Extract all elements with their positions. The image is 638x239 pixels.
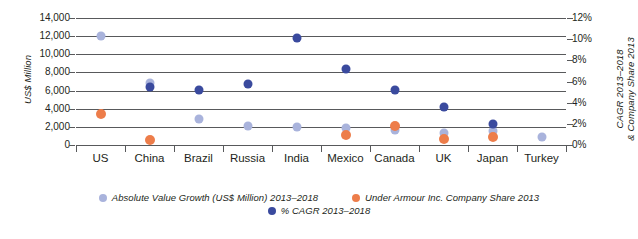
legend-row-secondary: % CAGR 2013–2018	[0, 205, 638, 218]
chart-legend: Absolute Value Growth (US$ Million) 2013…	[0, 192, 638, 218]
y-tick-label-left: 4,000	[45, 104, 70, 114]
x-axis-tick	[76, 145, 77, 152]
scatter-chart: US$ Million CAGR 2013–2018 & Company Sha…	[0, 0, 638, 239]
plot-area	[76, 18, 566, 145]
legend-label: Absolute Value Growth (US$ Million) 2013…	[112, 192, 318, 205]
data-point-cagr	[243, 79, 252, 88]
y-tick-label-left: 8,000	[45, 67, 70, 77]
gridline-tick-left	[69, 127, 75, 128]
data-point-ua	[390, 121, 400, 131]
data-point-cagr	[194, 85, 203, 94]
legend-swatch-dot-icon	[268, 207, 276, 215]
x-axis-category-label: Canada	[370, 152, 419, 165]
data-point-abs	[194, 114, 203, 123]
gridline-tick-left	[69, 72, 75, 73]
y-axis-right-title-line1: CAGR 2013–2018	[614, 49, 625, 128]
data-point-cagr	[488, 119, 497, 128]
y-tick-label-right: 0%	[572, 140, 586, 150]
x-axis-tick	[125, 145, 126, 152]
x-axis-tick	[321, 145, 322, 152]
legend-item[interactable]: Under Armour Inc. Company Share 2013	[352, 192, 539, 205]
gridline	[76, 72, 566, 73]
gridline-tick-left	[69, 145, 75, 146]
data-point-cagr	[439, 102, 448, 111]
data-point-cagr	[341, 64, 350, 73]
x-axis-category-label: UK	[419, 152, 468, 165]
y-tick-label-right: 2%	[572, 119, 586, 129]
x-axis-tick	[174, 145, 175, 152]
gridline	[76, 18, 566, 19]
gridline-tick-left	[69, 91, 75, 92]
y-axis-right-title: CAGR 2013–2018 & Company Share 2013	[615, 29, 637, 149]
gridline-tick-right	[567, 145, 573, 146]
x-axis-category-label: Brazil	[174, 152, 223, 165]
x-axis-tick	[223, 145, 224, 152]
y-tick-label-left: 14,000	[39, 13, 70, 23]
legend-row-primary: Absolute Value Growth (US$ Million) 2013…	[0, 192, 638, 205]
gridline-tick-right	[567, 39, 573, 40]
data-point-abs	[96, 32, 105, 41]
y-tick-label-right: 6%	[572, 77, 586, 87]
gridline-tick-left	[69, 54, 75, 55]
gridline-tick-right	[567, 124, 573, 125]
x-axis-category-label: Turkey	[517, 152, 566, 165]
x-axis-tick	[272, 145, 273, 152]
gridline-tick-left	[69, 18, 75, 19]
legend-label: Under Armour Inc. Company Share 2013	[365, 192, 539, 205]
data-point-abs	[292, 123, 301, 132]
y-tick-label-left: 12,000	[39, 31, 70, 41]
legend-item[interactable]: % CAGR 2013–2018	[268, 205, 371, 218]
gridline-tick-right	[567, 103, 573, 104]
x-axis-tick	[419, 145, 420, 152]
legend-item[interactable]: Absolute Value Growth (US$ Million) 2013…	[99, 192, 318, 205]
y-tick-label-right: 8%	[572, 55, 586, 65]
data-point-ua	[96, 109, 106, 119]
data-point-ua	[145, 135, 155, 145]
x-axis-tick	[468, 145, 469, 152]
legend-label: % CAGR 2013–2018	[281, 205, 371, 218]
data-point-cagr	[145, 82, 154, 91]
x-axis-tick	[370, 145, 371, 152]
data-point-abs	[537, 132, 546, 141]
data-point-cagr	[292, 34, 301, 43]
y-tick-label-left: 10,000	[39, 49, 70, 59]
gridline-tick-left	[69, 109, 75, 110]
x-axis-tick	[566, 145, 567, 152]
gridline-tick-right	[567, 18, 573, 19]
y-tick-label-right: 10%	[572, 34, 592, 44]
x-axis-category-label: Japan	[468, 152, 517, 165]
x-axis-category-label: India	[272, 152, 321, 165]
y-axis-right-title-line2: & Company Share 2013	[626, 29, 637, 149]
gridline	[76, 54, 566, 55]
data-point-abs	[243, 121, 252, 130]
x-axis-category-label: Mexico	[321, 152, 370, 165]
x-axis-category-label: China	[125, 152, 174, 165]
gridline	[76, 109, 566, 110]
legend-swatch-dot-icon	[352, 194, 360, 202]
y-tick-label-right: 4%	[572, 98, 586, 108]
data-point-cagr	[390, 85, 399, 94]
y-tick-label-left: 2,000	[45, 122, 70, 132]
gridline-tick-right	[567, 82, 573, 83]
gridline-tick-right	[567, 60, 573, 61]
x-axis-category-label: US	[76, 152, 125, 165]
y-tick-label-right: 12%	[572, 13, 592, 23]
data-point-ua	[488, 132, 498, 142]
legend-swatch-dot-icon	[99, 194, 107, 202]
gridline-tick-left	[69, 36, 75, 37]
y-tick-label-left: 6,000	[45, 86, 70, 96]
x-axis-category-label: Russia	[223, 152, 272, 165]
gridline	[76, 36, 566, 37]
data-point-ua	[439, 134, 449, 144]
x-axis-tick	[517, 145, 518, 152]
data-point-ua	[341, 130, 351, 140]
